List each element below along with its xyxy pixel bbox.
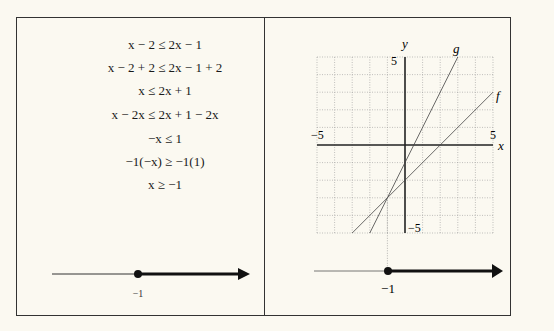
- x-axis-label: x: [497, 138, 504, 153]
- y-max-label: 5: [391, 54, 397, 68]
- coordinate-graph: y 5 −5 −5 5 x g f −1: [0, 0, 554, 331]
- right-number-line: −1: [314, 264, 503, 296]
- y-axis-label: y: [400, 36, 408, 51]
- closed-point-icon: [384, 267, 392, 275]
- line-f-label: f: [496, 88, 502, 103]
- y-min-label: −5: [408, 221, 421, 235]
- arrow-right-icon: [492, 264, 503, 278]
- line-f: [352, 92, 493, 233]
- x-min-label: −5: [311, 128, 324, 142]
- point-label: −1: [381, 281, 395, 296]
- line-g-label: g: [453, 41, 460, 56]
- x-max-label: 5: [490, 128, 496, 142]
